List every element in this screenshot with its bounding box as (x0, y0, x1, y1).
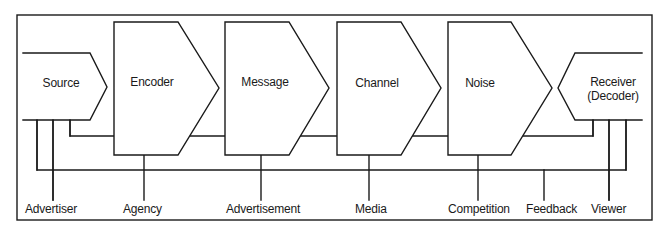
agency-label: Agency (123, 202, 162, 216)
advertisement-label: Advertisement (226, 202, 300, 216)
channel-label: Channel (349, 76, 405, 90)
receiver-connectors (593, 120, 626, 200)
source-label: Source (30, 76, 92, 90)
competition-label: Competition (448, 202, 510, 216)
outer-frame (17, 15, 652, 220)
source-connectors (37, 120, 70, 200)
viewer-label: Viewer (591, 202, 626, 216)
message-label: Message (236, 75, 294, 89)
feedback-label: Feedback (526, 202, 577, 216)
encoder-label: Encoder (124, 75, 180, 89)
media-label: Media (355, 202, 387, 216)
advertiser-label: Advertiser (25, 202, 77, 216)
noise-label: Noise (455, 76, 505, 90)
communication-model-diagram (0, 0, 668, 230)
receiver-label: Receiver (Decoder) (578, 75, 648, 103)
